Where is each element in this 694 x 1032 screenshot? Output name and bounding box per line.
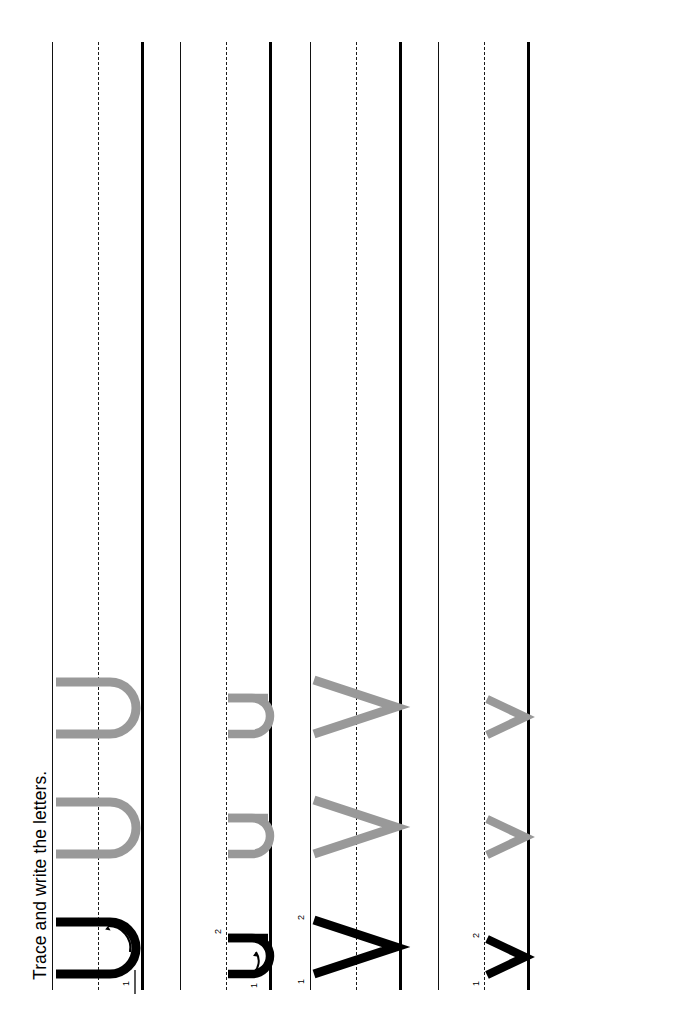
model-letter-u: 1 2	[226, 916, 272, 982]
rule-row-U: 1	[52, 42, 144, 990]
stroke-number-1: 1	[472, 981, 481, 986]
trace-letter-v-2	[484, 680, 530, 742]
worksheet-page: Trace and write the letters. 1	[0, 0, 694, 1032]
trace-letter-u-1	[226, 796, 272, 862]
stroke-number-1: 1	[250, 983, 259, 988]
trace-letter-V-1	[310, 784, 402, 862]
stroke-number-2: 2	[472, 933, 481, 938]
rule-row-v: 1 2	[438, 42, 530, 990]
rule-row-V: 1 2	[310, 42, 402, 990]
trace-letter-V-2	[310, 664, 402, 742]
rule-line-top	[180, 42, 181, 990]
model-letter-V: 1 2	[310, 904, 402, 982]
stroke-number-2: 2	[214, 929, 223, 934]
rule-line-top	[438, 42, 439, 990]
model-letter-U: 1	[52, 908, 144, 982]
stroke-number-2: 2	[297, 915, 306, 920]
trace-letter-U-2	[52, 668, 144, 742]
trace-letter-u-2	[226, 676, 272, 742]
trace-letter-U-1	[52, 788, 144, 862]
page-title: Trace and write the letters.	[30, 771, 51, 980]
stroke-number-1: 1	[297, 979, 306, 984]
rule-row-u: 1 2	[180, 42, 272, 990]
model-letter-v: 1 2	[484, 920, 530, 982]
trace-letter-v-1	[484, 800, 530, 862]
